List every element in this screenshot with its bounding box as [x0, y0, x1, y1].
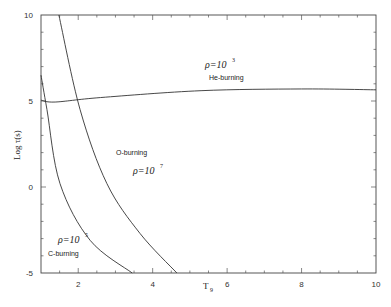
x-axis-label-main: T: [203, 281, 209, 291]
x-tick-label: 8: [299, 280, 304, 289]
annotation-o: O-burning ρ=10 7: [116, 149, 163, 176]
x-tick-label: 6: [225, 280, 230, 289]
he-burning-curve: [41, 89, 376, 102]
o-density-label: ρ=10: [132, 165, 155, 176]
y-tick-label: 5: [29, 97, 34, 106]
y-tick-label: 0: [29, 183, 34, 192]
he-density-label: ρ=10: [204, 59, 227, 70]
c-burning-curve: [41, 75, 132, 273]
x-tick-label: 2: [76, 280, 81, 289]
x-axis-label: T 9: [203, 281, 213, 293]
o-density-exponent: 7: [160, 163, 163, 169]
axis-tick-labels: 246810-50510: [24, 11, 381, 289]
c-burning-label: C-burning: [48, 250, 79, 258]
he-density-exponent: 3: [232, 57, 235, 63]
y-axis-label: Log τ(s): [12, 130, 22, 160]
x-axis-label-subscript: 9: [210, 287, 213, 293]
data-curves: [41, 15, 376, 273]
c-density-exponent: 5: [85, 232, 88, 238]
x-tick-label: 4: [150, 280, 155, 289]
y-tick-label: 10: [24, 11, 33, 20]
y-tick-label: -5: [26, 269, 34, 278]
x-tick-label: 10: [372, 280, 381, 289]
burning-timescale-chart: 246810-50510 ρ=10 3 He-burning O-burning…: [0, 0, 391, 307]
annotation-c: ρ=10 5 C-burning: [48, 232, 88, 258]
he-burning-label: He-burning: [209, 74, 244, 82]
annotation-he: ρ=10 3 He-burning: [204, 57, 244, 82]
o-burning-label: O-burning: [116, 149, 147, 157]
c-density-label: ρ=10: [57, 234, 80, 245]
